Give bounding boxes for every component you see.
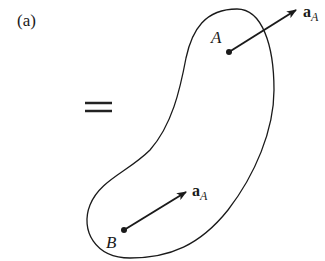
point-a-dot [226,49,232,55]
point-b-label: B [106,233,116,253]
vector-symbol: a [303,3,311,20]
point-b-dot [121,227,127,233]
vector-subscript: A [200,189,207,203]
vector-symbol: a [192,182,200,199]
rigid-body-outline [87,9,274,258]
vector-subscript: A [311,10,318,24]
point-a-label: A [211,28,221,48]
acceleration-arrow-at-a [229,10,296,52]
acceleration-arrow-at-b [124,192,186,230]
vector-label-at-b: aA [192,182,207,204]
vector-label-at-a: aA [303,3,318,25]
part-label: (a) [17,11,36,31]
diagram-canvas: (a) A B aA aA [0,0,325,261]
rigid-body-drawing [0,0,325,261]
